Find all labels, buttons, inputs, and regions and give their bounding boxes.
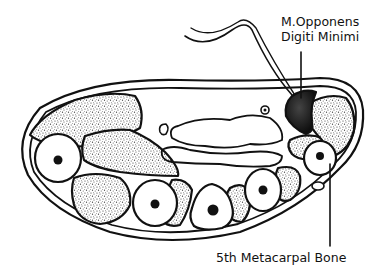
label-line-1: M.Opponens: [281, 14, 359, 29]
muscle-left-lower: [72, 174, 130, 224]
label-5th-metacarpal-bone: 5th Metacarpal Bone: [216, 250, 346, 265]
label-line-2: Digiti Minimi: [281, 29, 359, 44]
small-tendon: [160, 124, 168, 135]
flexor-tendon-upper: [171, 115, 282, 147]
small-structure: [312, 182, 324, 190]
label-opponens-digiti-minimi: M.Opponens Digiti Minimi: [281, 14, 359, 44]
thenar-muscle-middle: [82, 130, 178, 176]
flexor-tendon-lower: [162, 147, 282, 167]
